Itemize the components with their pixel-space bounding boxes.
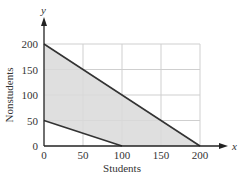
y-tick-labels: 0 50 100 150 200 <box>22 38 39 152</box>
x-tick-labels: 0 50 100 150 200 <box>41 149 209 161</box>
y-axis-variable: y <box>40 4 46 16</box>
svg-text:200: 200 <box>192 149 209 161</box>
svg-text:50: 50 <box>27 115 39 127</box>
svg-text:150: 150 <box>22 64 39 76</box>
x-axis-title: Students <box>103 162 141 174</box>
feasible-region-chart: x y 0 50 100 150 200 0 50 100 150 200 St… <box>0 0 240 178</box>
svg-text:150: 150 <box>153 149 170 161</box>
y-axis-title: Nonstudents <box>3 68 15 123</box>
x-axis-variable: x <box>231 140 237 152</box>
y-axis-arrow-icon <box>41 17 47 26</box>
svg-text:0: 0 <box>33 140 39 152</box>
svg-text:100: 100 <box>114 149 131 161</box>
x-axis-arrow-icon <box>219 143 228 149</box>
svg-text:50: 50 <box>78 149 90 161</box>
svg-text:100: 100 <box>22 89 39 101</box>
svg-text:200: 200 <box>22 38 39 50</box>
svg-text:0: 0 <box>41 149 47 161</box>
